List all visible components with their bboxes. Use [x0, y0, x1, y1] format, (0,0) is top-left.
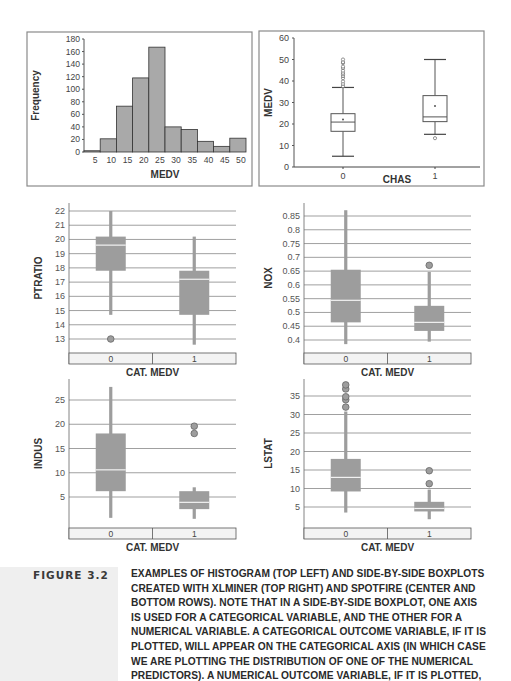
y-tick-label: 20	[70, 134, 80, 144]
y-axis-label: LSTAT	[263, 438, 274, 469]
outlier-point	[426, 467, 433, 474]
figure-caption: EXAMPLES OF HISTOGRAM (TOP LEFT) AND SID…	[131, 567, 511, 681]
outlier-point	[342, 393, 349, 400]
histogram-bar	[149, 47, 165, 152]
ptratio_by_catmedv-chart: 1314151617181920212201CAT. MEDVPTRATIO	[33, 203, 236, 378]
y-tick-label: 15	[55, 444, 65, 454]
x-tick-label: 45	[220, 155, 230, 165]
y-tick-label: 10	[290, 484, 300, 494]
outlier-point	[433, 137, 436, 140]
y-tick-label: 5	[295, 502, 300, 512]
box	[96, 433, 126, 491]
y-tick-label: 0	[75, 147, 80, 157]
histogram-bar	[197, 141, 213, 152]
x-tick-label: 15	[123, 155, 133, 165]
y-tick-label: 19	[55, 249, 65, 259]
y-tick-label: 0.55	[282, 294, 300, 304]
y-tick-label: 0	[284, 162, 289, 172]
histogram-bar	[165, 127, 181, 152]
box	[414, 502, 444, 512]
caption-line: BOTTOM ROWS). NOTE THAT IN A SIDE-BY-SID…	[131, 596, 511, 611]
y-tick-label: 10	[279, 141, 289, 151]
nox_by_catmedv-chart: 0.40.450.50.550.60.650.70.750.80.8501CAT…	[263, 203, 471, 378]
x-tick-label: 50	[236, 155, 246, 165]
histogram-bar	[84, 151, 100, 152]
y-tick-label: 25	[290, 428, 300, 438]
y-tick-label: 60	[70, 109, 80, 119]
y-tick-label: 0.8	[287, 225, 300, 235]
category-label: 0	[108, 354, 113, 364]
y-tick-label: 0.75	[282, 239, 300, 249]
category-label: 0	[343, 529, 348, 539]
y-tick-label: 22	[55, 206, 65, 216]
category-label: 0	[343, 354, 348, 364]
category-label: 1	[427, 529, 432, 539]
y-tick-label: 0.85	[282, 211, 300, 221]
caption-label-panel	[0, 567, 118, 681]
y-tick-label: 10	[55, 468, 65, 478]
y-tick-label: 120	[66, 72, 81, 82]
category-label: 0	[108, 529, 113, 539]
x-tick-label: 25	[155, 155, 165, 165]
y-tick-label: 20	[55, 419, 65, 429]
x-axis-label: CAT. MEDV	[361, 367, 414, 378]
mean-marker	[342, 118, 344, 120]
histogram-bar	[230, 138, 246, 152]
y-tick-label: 30	[290, 410, 300, 420]
y-axis-label: Frequency	[30, 70, 41, 121]
histogram-bar	[116, 106, 132, 152]
outlier-point	[341, 65, 344, 68]
box	[96, 237, 126, 271]
x-tick-label: 30	[171, 155, 181, 165]
y-tick-label: 14	[55, 320, 65, 330]
histogram-bar	[181, 129, 197, 152]
category-label: 1	[192, 529, 197, 539]
y-tick-label: 160	[66, 47, 81, 57]
caption-line: CREATED WITH XLMINER (TOP RIGHT) AND SPO…	[131, 582, 511, 597]
y-tick-label: 18	[55, 263, 65, 273]
y-tick-label: 16	[55, 291, 65, 301]
caption-line: WE ARE PLOTTING THE DISTRIBUTION OF ONE …	[131, 655, 511, 670]
caption-line: EXAMPLES OF HISTOGRAM (TOP LEFT) AND SID…	[131, 567, 511, 582]
caption-line: NUMERICAL VARIABLE. A CATEGORICAL OUTCOM…	[131, 625, 511, 640]
y-tick-label: 5	[60, 492, 65, 502]
outlier-point	[191, 423, 198, 430]
outlier-point	[426, 262, 433, 269]
y-tick-label: 40	[70, 122, 80, 132]
mean-marker	[434, 105, 436, 107]
y-tick-label: 140	[66, 59, 81, 69]
histogram-chart: 0204060801001201401601805101520253035404…	[27, 32, 252, 186]
medv_by_chas-chart: 010203040506001CHASMEDV	[259, 31, 484, 186]
outlier-point	[191, 430, 198, 437]
lstat_by_catmedv-chart: 510152025303501CAT. MEDVLSTAT	[263, 379, 471, 553]
y-tick-label: 80	[70, 97, 80, 107]
caption-line: PREDICTORS). A NUMERICAL OUTCOME VARIABL…	[131, 669, 511, 681]
caption-line: PLOTTED, WILL APPEAR ON THE CATEGORICAL …	[131, 640, 511, 655]
y-axis-label: MEDV	[263, 88, 274, 117]
x-axis-label: CAT. MEDV	[361, 542, 414, 553]
y-tick-label: 15	[55, 306, 65, 316]
y-tick-label: 25	[55, 395, 65, 405]
y-axis-label: NOX	[263, 267, 274, 289]
outlier-point	[342, 382, 349, 389]
x-axis-label: CHAS	[383, 174, 412, 185]
y-tick-label: 0.45	[282, 321, 300, 331]
y-tick-label: 20	[55, 234, 65, 244]
outlier-point	[426, 480, 433, 487]
y-tick-label: 35	[290, 391, 300, 401]
y-tick-label: 0.65	[282, 266, 300, 276]
figure-label: FIGURE 3.2	[33, 569, 109, 581]
y-tick-label: 15	[290, 465, 300, 475]
y-tick-label: 0.7	[287, 252, 300, 262]
y-tick-label: 0.5	[287, 307, 300, 317]
y-tick-label: 20	[279, 119, 289, 129]
box	[331, 459, 361, 492]
y-tick-label: 100	[66, 84, 81, 94]
outlier-point	[107, 336, 114, 343]
y-tick-label: 0.4	[287, 335, 300, 345]
x-tick-label: 40	[204, 155, 214, 165]
x-tick-label: 1	[432, 171, 437, 181]
x-tick-label: 5	[93, 155, 98, 165]
y-tick-label: 20	[290, 447, 300, 457]
x-tick-label: 10	[107, 155, 117, 165]
